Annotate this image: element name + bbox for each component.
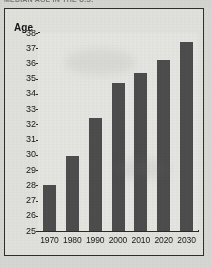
y-axis-tick-label: 26: [10, 211, 36, 220]
bar: [157, 60, 170, 231]
y-axis-tick-group: 2526272829303132333435363738: [5, 9, 36, 257]
bar: [112, 83, 125, 231]
y-axis-tick-label: 29: [10, 166, 36, 175]
clipped-headline-text: MEDIAN AGE IN THE U.S.: [4, 0, 93, 3]
bar: [43, 185, 56, 231]
y-axis-tick-label: 32: [10, 120, 36, 129]
y-axis-tick-label: 30: [10, 150, 36, 159]
bar: [66, 156, 79, 231]
y-axis-tick-label: 27: [10, 196, 36, 205]
x-axis-tick-label: 2030: [174, 235, 200, 245]
bar: [180, 42, 193, 231]
chart-screenshot: MEDIAN AGE IN THE U.S. Age 2526272829303…: [0, 0, 211, 268]
y-axis-tick-label: 36: [10, 59, 36, 68]
figure-frame: Age 2526272829303132333435363738 1970198…: [4, 8, 204, 256]
clipped-headline: MEDIAN AGE IN THE U.S.: [0, 0, 211, 7]
y-axis-tick-label: 28: [10, 181, 36, 190]
y-axis-tick-label: 35: [10, 74, 36, 83]
y-axis-tick-label: 31: [10, 135, 36, 144]
plot-area: [38, 33, 198, 231]
y-axis-tick-label: 33: [10, 105, 36, 114]
y-axis-tick-label: 34: [10, 89, 36, 98]
y-axis-tick-label: 37: [10, 44, 36, 53]
bar: [89, 118, 102, 231]
y-axis-tick-label: 38: [10, 29, 36, 38]
bar: [134, 73, 147, 231]
y-axis-tick-label: 25: [10, 227, 36, 236]
